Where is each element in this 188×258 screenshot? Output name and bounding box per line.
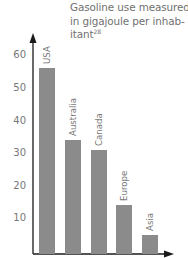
y-axis-arrow-icon [30, 33, 37, 43]
y-tick-label: 30 [2, 148, 26, 158]
bar-label-asia: Asia [145, 213, 155, 231]
bar-canada [91, 150, 107, 254]
bar-label-australia: Australia [68, 98, 78, 136]
bar-europe [116, 205, 132, 254]
bar-usa [39, 68, 55, 254]
bar-chart: 102030405060 USAAustraliaCanadaEuropeAsi… [0, 0, 188, 258]
y-tick-label: 20 [2, 181, 26, 191]
x-axis-arrow-icon [164, 251, 174, 258]
bar-label-europe: Europe [119, 171, 129, 201]
y-tick-label: 40 [2, 116, 26, 126]
bar-label-canada: Canada [94, 113, 104, 146]
bar-asia [142, 235, 158, 254]
y-tick-label: 10 [2, 213, 26, 223]
y-tick-label: 50 [2, 83, 26, 93]
bar-label-usa: USA [42, 47, 52, 65]
y-tick-label: 60 [2, 50, 26, 60]
bar-australia [65, 140, 81, 254]
